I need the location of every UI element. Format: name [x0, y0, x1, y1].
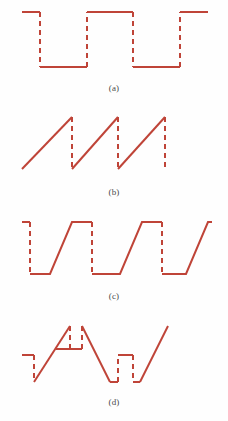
waveform-solid-segment [118, 117, 165, 169]
waveform-solid-segment [34, 326, 70, 382]
caption-d: (d) [0, 396, 228, 408]
caption-a: (a) [0, 82, 228, 94]
waveform-panel-c: (c) [0, 210, 228, 314]
waveform-plot-c [0, 210, 228, 290]
waveform-panel-d: (d) [0, 314, 228, 421]
waveform-solid-segment [162, 222, 212, 274]
waveform-plot-b [0, 106, 228, 186]
caption-c: (c) [0, 290, 228, 302]
figure-container: (a) (b) (c) (d) [0, 0, 228, 421]
caption-b: (b) [0, 186, 228, 198]
waveform-panel-b: (b) [0, 106, 228, 210]
waveform-plot-a [0, 0, 228, 82]
waveform-solid-segment [82, 326, 110, 382]
waveform-solid-segment [22, 117, 72, 169]
waveform-panel-a: (a) [0, 0, 228, 106]
waveform-plot-d [0, 314, 228, 396]
waveform-solid-segment [92, 222, 162, 274]
waveform-solid-segment [72, 117, 118, 169]
waveform-solid-segment [140, 326, 168, 382]
waveform-solid-segment [30, 222, 92, 274]
